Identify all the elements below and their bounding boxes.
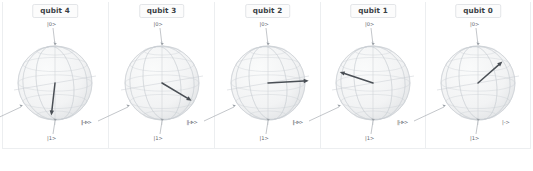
axis-label-top: |0> bbox=[470, 22, 479, 27]
bloch-panel-2: qubit 2|0>|1>|+>|-> bbox=[215, 0, 320, 171]
panel-title: qubit 1 bbox=[350, 4, 396, 18]
bloch-sphere: |0>|1>|+>|-> bbox=[331, 41, 415, 125]
axis-label-bottom: |1> bbox=[470, 136, 479, 141]
axis-label-bottom: |1> bbox=[260, 136, 269, 141]
axis-label-bottom: |1> bbox=[154, 136, 163, 141]
bloch-sphere-figure: qubit 4|0>|1>|+>|->qubit 3|0>|1>|+>|->qu… bbox=[0, 0, 533, 171]
axis-label-top: |0> bbox=[365, 22, 374, 27]
bloch-panel-4: qubit 0|0>|1>|+>|-> bbox=[426, 0, 530, 171]
axis-label-left: |+> bbox=[188, 120, 198, 125]
axis-label-top: |0> bbox=[47, 22, 56, 27]
axis-label-left: |+> bbox=[398, 120, 408, 125]
bloch-panel-1: qubit 3|0>|1>|+>|-> bbox=[109, 0, 214, 171]
panel-title: qubit 0 bbox=[455, 4, 501, 18]
bloch-sphere: |0>|1>|+>|-> bbox=[13, 41, 97, 125]
panel-title: qubit 3 bbox=[139, 4, 185, 18]
bloch-sphere: |0>|1>|+>|-> bbox=[436, 41, 520, 125]
axis-label-top: |0> bbox=[260, 22, 269, 27]
axis-label-top: |0> bbox=[154, 22, 163, 27]
axis-label-bottom: |1> bbox=[365, 136, 374, 141]
bloch-sphere: |0>|1>|+>|-> bbox=[120, 41, 204, 125]
bloch-panel-3: qubit 1|0>|1>|+>|-> bbox=[321, 0, 425, 171]
bloch-sphere: |0>|1>|+>|-> bbox=[226, 41, 310, 125]
figure-right-border bbox=[530, 2, 531, 149]
axis-label-left: |+> bbox=[293, 120, 303, 125]
axis-label-right: |-> bbox=[502, 120, 510, 125]
axis-label-left: |+> bbox=[82, 120, 92, 125]
panel-title: qubit 4 bbox=[32, 4, 78, 18]
axis-label-bottom: |1> bbox=[47, 136, 56, 141]
bloch-panel-0: qubit 4|0>|1>|+>|-> bbox=[2, 0, 108, 171]
panel-title: qubit 2 bbox=[245, 4, 291, 18]
